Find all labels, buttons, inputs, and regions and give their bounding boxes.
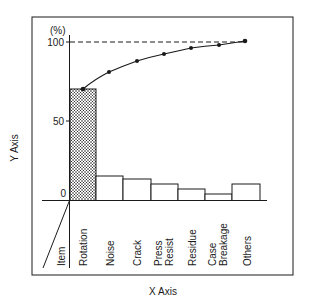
category-label-breakage: Breakage [218,223,229,266]
pareto-chart: (%) 100 50 0 Y Axis Item Rotation Noise … [0,0,311,298]
corner-label-item: Item [56,247,67,266]
bar-others [232,184,260,201]
bar-crack [123,179,151,201]
category-label-crack: Crack [132,239,143,266]
category-label-case: Case [207,242,218,266]
category-label-press: Press [153,240,164,266]
y-axis-title: Y Axis [9,134,20,162]
category-label-resist: Resist [164,238,175,266]
x-axis-title: X Axis [149,286,177,297]
category-label-noise: Noise [105,240,116,266]
cumulative-points [81,39,248,92]
bar-case-breakage [205,194,232,201]
bar-residue [178,189,205,201]
category-label-others: Others [242,236,253,266]
y-tick-label-0: 0 [60,188,66,199]
bar-press-resist [151,184,178,201]
y-tick-label-100: 100 [47,37,64,48]
bar-rotation [70,89,96,201]
y-tick-label-50: 50 [53,116,65,127]
bar-noise [96,176,123,201]
y-unit-label: (%) [50,25,66,36]
category-label-residue: Residue [187,229,198,266]
cumulative-line [83,41,245,89]
category-label-rotation: Rotation [78,229,89,266]
